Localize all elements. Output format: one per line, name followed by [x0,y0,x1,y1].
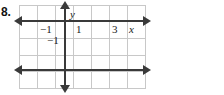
y-tick-label-negative-one: −1 [47,35,59,46]
graph-line-right-arrow-icon [143,65,151,75]
x-axis-label: x [129,24,134,35]
exercise-number-label: 8. [1,6,11,18]
graphed-function [19,5,146,89]
exercise-figure: 8. [0,0,224,95]
coordinate-plane: −1 1 3 −1 x y [19,5,146,89]
graph-line-left-arrow-icon [14,65,22,75]
horizontal-line-y-equals-negative-three [19,69,146,71]
y-axis-label: y [70,9,75,20]
x-tick-label-one: 1 [76,24,82,35]
x-tick-label-three: 3 [112,24,118,35]
